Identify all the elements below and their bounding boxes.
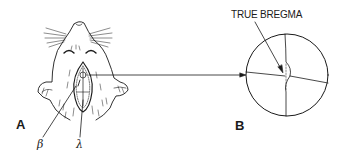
diagram-drawing (0, 0, 349, 165)
beta-leader-line (43, 86, 76, 137)
magnification-arrowhead (240, 73, 246, 77)
true-bregma-arrowhead (278, 65, 283, 73)
figure-canvas: TRUE BREGMA A B β λ (0, 0, 349, 165)
true-bregma-label: TRUE BREGMA (231, 10, 302, 20)
lambda-label: λ (76, 139, 83, 150)
magnified-skull-view (246, 34, 328, 116)
panel-a-label: A (16, 118, 25, 131)
panel-b-label: B (235, 119, 244, 132)
beta-label: β (37, 139, 43, 150)
